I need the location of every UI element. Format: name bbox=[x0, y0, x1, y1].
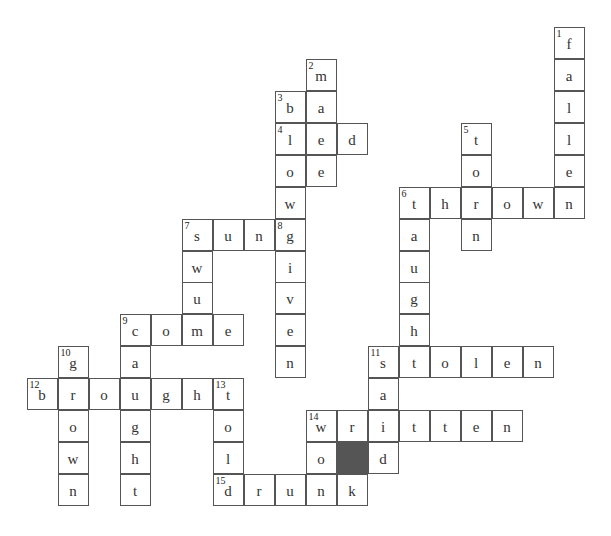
grid-cell[interactable]: 12b bbox=[27, 378, 58, 410]
grid-cell[interactable]: e bbox=[554, 155, 585, 187]
grid-cell[interactable]: o bbox=[213, 410, 244, 442]
grid-cell[interactable]: h bbox=[430, 187, 461, 219]
cell-letter: r bbox=[59, 386, 88, 404]
grid-cell[interactable]: e bbox=[306, 155, 337, 187]
grid-cell[interactable]: w bbox=[523, 187, 554, 219]
grid-cell[interactable]: m bbox=[182, 314, 213, 346]
grid-cell[interactable]: u bbox=[182, 282, 213, 314]
cell-letter: g bbox=[400, 290, 429, 308]
cell-letter: f bbox=[555, 35, 584, 53]
grid-cell[interactable]: o bbox=[58, 410, 89, 442]
cell-letter: v bbox=[276, 290, 305, 308]
grid-cell[interactable]: g bbox=[399, 282, 430, 314]
cell-letter: e bbox=[214, 322, 243, 340]
grid-cell[interactable]: n bbox=[492, 410, 523, 442]
grid-cell[interactable]: w bbox=[275, 187, 306, 219]
grid-cell[interactable]: n bbox=[461, 219, 492, 251]
grid-cell[interactable]: a bbox=[554, 59, 585, 91]
grid-cell[interactable]: g bbox=[151, 378, 182, 410]
grid-cell[interactable]: d bbox=[337, 123, 368, 155]
grid-cell[interactable]: h bbox=[399, 314, 430, 346]
grid-cell[interactable]: n bbox=[306, 474, 337, 506]
grid-cell[interactable]: r bbox=[58, 378, 89, 410]
grid-cell[interactable]: u bbox=[275, 474, 306, 506]
grid-cell[interactable]: e bbox=[275, 314, 306, 346]
cell-letter: a bbox=[555, 67, 584, 85]
cell-letter: d bbox=[369, 450, 398, 468]
grid-cell[interactable]: n bbox=[554, 187, 585, 219]
grid-cell[interactable]: o bbox=[492, 187, 523, 219]
grid-cell[interactable]: k bbox=[337, 474, 368, 506]
grid-cell[interactable]: o bbox=[275, 155, 306, 187]
grid-cell[interactable]: o bbox=[151, 314, 182, 346]
grid-cell[interactable]: 2m bbox=[306, 59, 337, 91]
grid-cell[interactable]: a bbox=[120, 346, 151, 378]
black-cell bbox=[337, 442, 368, 474]
grid-cell[interactable]: u bbox=[120, 378, 151, 410]
grid-cell[interactable]: o bbox=[430, 346, 461, 378]
grid-cell[interactable]: h bbox=[182, 378, 213, 410]
grid-cell[interactable]: o bbox=[461, 155, 492, 187]
grid-cell[interactable]: e bbox=[213, 314, 244, 346]
grid-cell[interactable]: u bbox=[399, 251, 430, 283]
grid-cell[interactable]: w bbox=[182, 251, 213, 283]
cell-letter: n bbox=[276, 354, 305, 372]
cell-letter: o bbox=[431, 354, 460, 372]
grid-cell[interactable]: i bbox=[275, 251, 306, 283]
grid-cell[interactable]: a bbox=[368, 378, 399, 410]
grid-cell[interactable]: 6t bbox=[399, 187, 430, 219]
grid-cell[interactable]: a bbox=[306, 91, 337, 123]
grid-cell[interactable]: e bbox=[461, 410, 492, 442]
cell-letter: u bbox=[400, 259, 429, 277]
grid-cell[interactable]: 7s bbox=[182, 219, 213, 251]
cell-letter: u bbox=[121, 386, 150, 404]
grid-cell[interactable]: t bbox=[399, 346, 430, 378]
grid-cell[interactable]: 5t bbox=[461, 123, 492, 155]
grid-cell[interactable]: 15d bbox=[213, 474, 244, 506]
grid-cell[interactable]: 8g bbox=[275, 219, 306, 251]
grid-cell[interactable]: 3b bbox=[275, 91, 306, 123]
grid-cell[interactable]: n bbox=[523, 346, 554, 378]
grid-cell[interactable]: d bbox=[368, 442, 399, 474]
grid-cell[interactable]: n bbox=[275, 346, 306, 378]
grid-cell[interactable]: r bbox=[244, 474, 275, 506]
grid-cell[interactable]: a bbox=[399, 219, 430, 251]
grid-cell[interactable]: 10g bbox=[58, 346, 89, 378]
grid-cell[interactable]: 1f bbox=[554, 27, 585, 59]
grid-cell[interactable]: 13t bbox=[213, 378, 244, 410]
grid-cell[interactable]: t bbox=[430, 410, 461, 442]
cell-letter: o bbox=[307, 450, 336, 468]
cell-letter: h bbox=[431, 195, 460, 213]
grid-cell[interactable]: v bbox=[275, 282, 306, 314]
grid-cell[interactable]: o bbox=[89, 378, 120, 410]
grid-cell[interactable]: t bbox=[120, 474, 151, 506]
cell-letter: i bbox=[369, 418, 398, 436]
cell-letter: n bbox=[307, 482, 336, 500]
grid-cell[interactable]: u bbox=[213, 219, 244, 251]
grid-cell[interactable]: 14w bbox=[306, 410, 337, 442]
grid-cell[interactable]: e bbox=[306, 123, 337, 155]
cell-letter: e bbox=[555, 163, 584, 181]
grid-cell[interactable]: 11s bbox=[368, 346, 399, 378]
grid-cell[interactable]: l bbox=[554, 91, 585, 123]
grid-cell[interactable]: w bbox=[58, 442, 89, 474]
grid-cell[interactable]: l bbox=[554, 123, 585, 155]
grid-cell[interactable]: g bbox=[120, 410, 151, 442]
grid-cell[interactable]: n bbox=[58, 474, 89, 506]
grid-cell[interactable]: h bbox=[120, 442, 151, 474]
cell-letter: h bbox=[183, 386, 212, 404]
cell-letter: k bbox=[338, 482, 367, 500]
grid-cell[interactable]: 4l bbox=[275, 123, 306, 155]
grid-cell[interactable]: e bbox=[492, 346, 523, 378]
grid-cell[interactable]: 9c bbox=[120, 314, 151, 346]
grid-cell[interactable]: r bbox=[337, 410, 368, 442]
grid-cell[interactable]: n bbox=[244, 219, 275, 251]
grid-cell[interactable]: o bbox=[306, 442, 337, 474]
grid-cell[interactable]: t bbox=[399, 410, 430, 442]
grid-cell[interactable]: i bbox=[368, 410, 399, 442]
grid-cell[interactable]: l bbox=[461, 346, 492, 378]
grid-cell[interactable]: l bbox=[213, 442, 244, 474]
cell-letter: e bbox=[307, 163, 336, 181]
cell-letter: i bbox=[276, 259, 305, 277]
grid-cell[interactable]: r bbox=[461, 187, 492, 219]
